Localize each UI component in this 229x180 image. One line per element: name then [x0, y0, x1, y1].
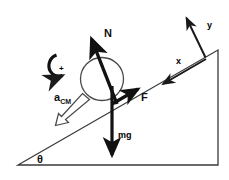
x-axis-label: x [176, 56, 181, 66]
coordinate-axes [163, 18, 206, 84]
normal-force-label: N [104, 27, 112, 39]
friction-force-arrow [112, 89, 138, 104]
x-axis-arrow [163, 59, 206, 84]
y-axis-label: y [207, 20, 212, 30]
friction-force-vector [112, 89, 138, 104]
acceleration-label: aCM [54, 91, 71, 105]
weight-label: mg [118, 130, 132, 140]
y-axis-arrow [187, 18, 206, 58]
physics-diagram-canvas: θ N F mg aCM + [0, 0, 229, 180]
angle-theta-label: θ [37, 153, 43, 165]
rotation-sign-label: + [59, 64, 64, 73]
friction-force-label: F [141, 91, 148, 103]
acceleration-label-subscript: CM [60, 98, 71, 105]
